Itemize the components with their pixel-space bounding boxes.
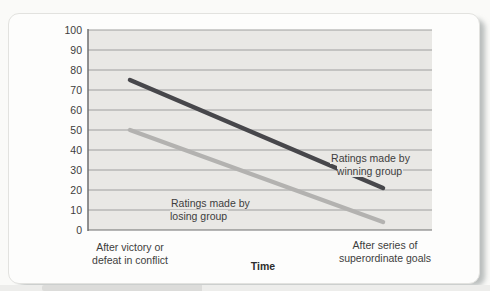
y-tick-label: 0 — [42, 223, 82, 237]
y-tick-label: 20 — [42, 183, 82, 197]
y-tick-label: 50 — [42, 123, 82, 137]
y-tick-label: 90 — [42, 43, 82, 57]
y-tick-label: 30 — [42, 163, 82, 177]
x-tick-label-superordinate: After series of superordinate goals — [303, 239, 467, 264]
annotation-losing-group: Ratings made by losing group — [170, 184, 300, 223]
annotation-winning-group: Ratings made by winning group — [309, 139, 431, 178]
y-tick-label: 70 — [42, 83, 82, 97]
y-tick-label: 60 — [42, 103, 82, 117]
figure: Ratings made by winning group Ratings ma… — [0, 0, 490, 291]
y-tick-label: 40 — [42, 143, 82, 157]
y-tick-label: 80 — [42, 63, 82, 77]
x-tick-label-conflict: After victory or defeat in conflict — [66, 241, 194, 266]
x-axis-title: Time — [233, 260, 293, 272]
y-tick-label: 10 — [42, 203, 82, 217]
annotation-losing-text: Ratings made by losing group — [170, 197, 250, 222]
y-tick-label: 100 — [42, 23, 82, 37]
annotation-winning-text: Ratings made by winning group — [330, 152, 410, 177]
